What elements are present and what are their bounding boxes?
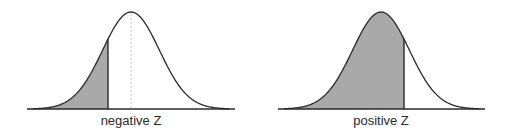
positive-z-diagram xyxy=(278,12,485,109)
negative-z-label: negative Z xyxy=(71,113,191,128)
negative-z-diagram xyxy=(27,12,235,109)
shaded-area xyxy=(284,12,404,109)
positive-z-label: positive Z xyxy=(321,113,441,128)
